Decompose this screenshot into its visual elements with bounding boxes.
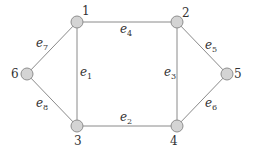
node-4 — [171, 120, 183, 132]
edge-label-e3: e3 — [164, 65, 176, 81]
node-label-4: 4 — [170, 134, 178, 148]
edge-label-e8: e8 — [36, 96, 48, 112]
node-label-6: 6 — [11, 67, 19, 81]
edge-label-e7: e7 — [36, 36, 48, 52]
edge-label-e1: e1 — [80, 65, 92, 81]
node-label-5: 5 — [234, 67, 242, 81]
edge-label-e5: e5 — [205, 38, 217, 54]
graph-diagram: e1e2e3e4e5e6e7e8123456 — [0, 0, 253, 150]
node-label-1: 1 — [82, 4, 90, 18]
node-label-2: 2 — [182, 6, 190, 20]
node-5 — [221, 68, 233, 80]
node-6 — [21, 68, 33, 80]
edge-label-e4: e4 — [120, 22, 132, 38]
node-label-3: 3 — [74, 134, 82, 148]
edge-e6 — [177, 74, 227, 126]
edge-e7 — [27, 22, 77, 74]
edge-label-e6: e6 — [205, 96, 217, 112]
node-3 — [71, 120, 83, 132]
edge-label-e2: e2 — [120, 110, 132, 126]
edge-e8 — [27, 74, 77, 126]
edge-e5 — [177, 22, 227, 74]
